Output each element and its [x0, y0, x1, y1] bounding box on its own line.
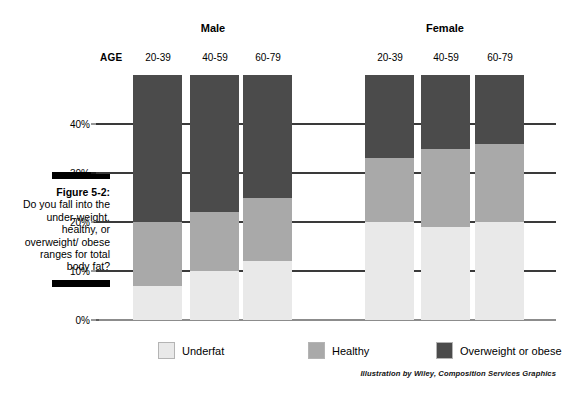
category-label-male-60-79: 60-79 — [243, 52, 293, 63]
bar-segment-healthy-female-40-59 — [421, 149, 470, 227]
bar-segment-overweight-male-60-79 — [243, 75, 292, 198]
bar-segment-overweight-male-40-59 — [190, 75, 239, 212]
legend-item-underfat: Underfat — [158, 342, 224, 359]
bar-segment-overweight-female-40-59 — [421, 75, 470, 149]
bar-segment-underfat-male-60-79 — [243, 261, 292, 320]
bar-segment-underfat-female-20-39 — [365, 222, 414, 320]
y-tick-label-30%: 30% — [52, 168, 90, 179]
y-tick-label-20%: 20% — [52, 217, 90, 228]
legend-label: Healthy — [332, 345, 369, 357]
bar-segment-underfat-male-20-39 — [133, 286, 182, 320]
bar-segment-healthy-male-60-79 — [243, 198, 292, 262]
y-tick-label-10%: 10% — [52, 266, 90, 277]
legend-label: Overweight or obese — [460, 345, 562, 357]
legend-item-overweight-or-obese: Overweight or obese — [436, 342, 562, 359]
y-tick-dash-0% — [91, 320, 99, 321]
legend-label: Underfat — [182, 345, 224, 357]
category-label-female-60-79: 60-79 — [475, 52, 525, 63]
bar-male-20-39 — [133, 75, 182, 320]
y-tick-label-0%: 0% — [52, 315, 90, 326]
age-axis-label: AGE — [100, 52, 123, 63]
category-label-female-40-59: 40-59 — [421, 52, 471, 63]
bar-male-40-59 — [190, 75, 239, 320]
bar-segment-healthy-male-20-39 — [133, 222, 182, 286]
bar-segment-healthy-female-60-79 — [475, 144, 524, 222]
bar-segment-overweight-male-20-39 — [133, 75, 182, 222]
legend-swatch-healthy — [308, 342, 325, 359]
y-tick-dash-40% — [91, 124, 99, 125]
bar-segment-healthy-female-20-39 — [365, 158, 414, 222]
group-title-female: Female — [365, 22, 525, 34]
legend-swatch-overweight-or-obese — [436, 342, 453, 359]
y-tick-dash-20% — [91, 222, 99, 223]
legend-swatch-underfat — [158, 342, 175, 359]
bar-segment-underfat-male-40-59 — [190, 271, 239, 320]
bar-female-40-59 — [421, 75, 470, 320]
y-tick-dash-10% — [91, 271, 99, 272]
bar-female-60-79 — [475, 75, 524, 320]
bar-male-60-79 — [243, 75, 292, 320]
bar-segment-underfat-female-60-79 — [475, 222, 524, 320]
y-tick-label-40%: 40% — [52, 119, 90, 130]
category-label-male-40-59: 40-59 — [190, 52, 240, 63]
illustration-credit: Illustration by Wiley, Composition Servi… — [360, 369, 556, 378]
bar-female-20-39 — [365, 75, 414, 320]
legend-item-healthy: Healthy — [308, 342, 369, 359]
bar-segment-healthy-male-40-59 — [190, 212, 239, 271]
category-label-female-20-39: 20-39 — [365, 52, 415, 63]
bar-segment-overweight-female-20-39 — [365, 75, 414, 158]
chart-legend: UnderfatHealthyOverweight or obese — [96, 342, 556, 364]
y-tick-dash-30% — [91, 173, 99, 174]
category-label-male-20-39: 20-39 — [133, 52, 183, 63]
stacked-bar-chart: Male Female AGE 20-3940-5960-7920-3940-5… — [96, 8, 556, 333]
bar-segment-overweight-female-60-79 — [475, 75, 524, 144]
bar-segment-underfat-female-40-59 — [421, 227, 470, 320]
group-title-male: Male — [133, 22, 293, 34]
